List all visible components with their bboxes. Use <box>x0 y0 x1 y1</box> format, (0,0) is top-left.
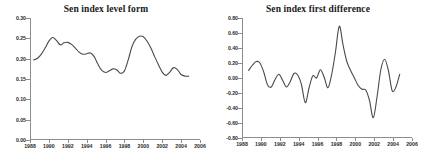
plot-area-level-form: 0.000.050.100.150.200.250.30198819901992… <box>30 18 200 140</box>
y-tick-mark <box>238 63 242 64</box>
y-axis-label: 0.60 <box>228 30 238 36</box>
chart-title-first-difference: Sen index first difference <box>212 4 424 14</box>
y-tick-mark <box>238 33 242 34</box>
y-tick-mark <box>238 93 242 94</box>
x-axis-label: 1988 <box>24 143 36 149</box>
x-axis-label: 2000 <box>138 143 150 149</box>
y-axis-label: 0.10 <box>16 96 26 102</box>
x-axis-label: 1992 <box>62 143 74 149</box>
x-axis-label: 1992 <box>274 141 286 147</box>
x-axis-label: 1990 <box>43 143 55 149</box>
x-axis-label: 1988 <box>236 141 248 147</box>
y-tick-mark <box>238 18 242 19</box>
y-tick-mark <box>238 108 242 109</box>
x-axis-label: 1994 <box>293 141 305 147</box>
y-axis-label: 0.25 <box>16 35 26 41</box>
x-axis-label: 1998 <box>119 143 131 149</box>
y-tick-mark <box>26 18 30 19</box>
x-axis-label: 1998 <box>331 141 343 147</box>
y-tick-mark <box>26 99 30 100</box>
y-tick-mark <box>238 123 242 124</box>
chart-panel-level-form: Sen index level form 0.000.050.100.150.2… <box>0 0 212 163</box>
y-axis-label: 0.00 <box>228 75 238 81</box>
y-tick-mark <box>238 78 242 79</box>
x-axis-label: 2002 <box>368 141 380 147</box>
y-axis-label: 0.05 <box>16 117 26 123</box>
x-axis-label: 1994 <box>81 143 93 149</box>
y-tick-mark <box>26 79 30 80</box>
y-tick-mark <box>238 48 242 49</box>
x-axis-label: 2002 <box>156 143 168 149</box>
y-axis-label: 0.15 <box>16 76 26 82</box>
x-axis-label: 1990 <box>255 141 267 147</box>
y-axis-label: 0.20 <box>228 60 238 66</box>
y-axis-label: 0.80 <box>228 15 238 21</box>
series-line-first-difference <box>242 18 412 138</box>
series-line-level-form <box>30 18 200 140</box>
y-axis-label: -0.20 <box>226 90 238 96</box>
x-axis-label: 2004 <box>175 143 187 149</box>
plot-area-first-difference: -0.80-0.60-0.40-0.200.000.200.400.600.80… <box>242 18 412 138</box>
y-axis-label: 0.40 <box>228 45 238 51</box>
x-axis-label: 1996 <box>312 141 324 147</box>
y-tick-mark <box>26 120 30 121</box>
x-axis-label: 2000 <box>350 141 362 147</box>
chart-title-level-form: Sen index level form <box>0 4 212 14</box>
figure-container: Sen index level form 0.000.050.100.150.2… <box>0 0 424 163</box>
y-tick-mark <box>26 38 30 39</box>
y-axis-label: 0.30 <box>16 15 26 21</box>
x-axis-label: 2006 <box>406 141 418 147</box>
y-tick-mark <box>26 59 30 60</box>
y-axis-label: 0.20 <box>16 56 26 62</box>
chart-panel-first-difference: Sen index first difference -0.80-0.60-0.… <box>212 0 424 163</box>
x-axis-label: 2004 <box>387 141 399 147</box>
y-axis-label: -0.40 <box>226 105 238 111</box>
y-axis-label: -0.60 <box>226 120 238 126</box>
x-axis-label: 1996 <box>100 143 112 149</box>
x-axis-label: 2006 <box>194 143 206 149</box>
